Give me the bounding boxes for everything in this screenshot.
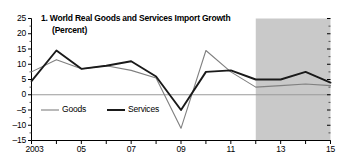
legend-label-goods: Goods xyxy=(62,105,86,114)
chart-panel: 1. World Real Goods and Services Import … xyxy=(0,0,338,163)
legend-swatches xyxy=(0,0,338,163)
legend-label-services: Services xyxy=(128,105,159,114)
